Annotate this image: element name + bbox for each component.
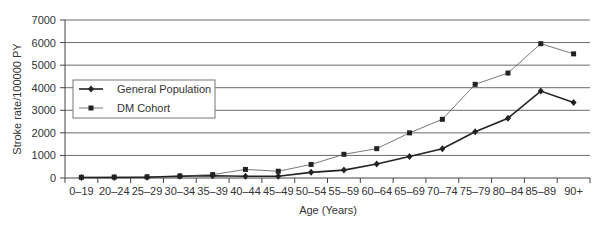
diamond-marker (341, 167, 347, 174)
x-tick-label: 75–79 (460, 185, 491, 197)
x-tick-label: 30–34 (165, 185, 196, 197)
x-tick-label: 55–59 (329, 185, 360, 197)
square-marker (505, 71, 510, 76)
legend-label: General Population (117, 83, 211, 95)
y-tick-label: 5000 (32, 59, 56, 71)
x-tick-label: 65–69 (394, 185, 425, 197)
x-tick-label: 80–84 (493, 185, 524, 197)
square-marker (309, 162, 314, 167)
diamond-marker (439, 145, 445, 152)
square-marker (341, 152, 346, 157)
x-axis-ticks: 0–1920–2425–2930–3435–3940–4445–4950–545… (65, 178, 590, 197)
square-marker (374, 146, 379, 151)
x-tick-label: 20–24 (99, 185, 130, 197)
square-marker (473, 82, 478, 87)
x-tick-label: 85–89 (525, 185, 556, 197)
y-tick-label: 0 (50, 172, 56, 184)
y-tick-label: 2000 (32, 127, 56, 139)
square-marker (407, 130, 412, 135)
diamond-marker (242, 173, 248, 180)
x-tick-label: 35–39 (197, 185, 228, 197)
legend: General PopulationDM Cohort (73, 80, 215, 118)
line-chart: 01000200030004000500060007000 0–1920–242… (0, 0, 606, 228)
y-axis-ticks: 01000200030004000500060007000 (32, 14, 65, 184)
y-tick-label: 6000 (32, 37, 56, 49)
y-tick-label: 7000 (32, 14, 56, 26)
x-tick-label: 60–64 (361, 185, 392, 197)
diamond-marker (374, 161, 380, 168)
diamond-marker (275, 173, 281, 180)
x-axis-title: Age (Years) (299, 204, 357, 216)
y-axis-title: Stroke rate/100000 PY (11, 43, 23, 155)
x-tick-label: 40–44 (230, 185, 261, 197)
x-tick-label: 25–29 (132, 185, 163, 197)
square-marker (440, 117, 445, 122)
x-tick-label: 50–54 (296, 185, 327, 197)
x-tick-label: 70–74 (427, 185, 458, 197)
x-tick-label: 45–49 (263, 185, 294, 197)
diamond-marker (472, 128, 478, 135)
diamond-marker (571, 99, 577, 106)
square-marker (89, 106, 94, 111)
square-marker (243, 167, 248, 172)
x-tick-label: 0–19 (69, 185, 93, 197)
diamond-marker (308, 169, 314, 176)
x-tick-label: 90+ (564, 185, 583, 197)
legend-label: DM Cohort (117, 102, 170, 114)
y-tick-label: 4000 (32, 82, 56, 94)
square-marker (538, 41, 543, 46)
y-tick-label: 3000 (32, 104, 56, 116)
y-tick-label: 1000 (32, 149, 56, 161)
square-marker (571, 51, 576, 56)
diamond-marker (407, 153, 413, 160)
